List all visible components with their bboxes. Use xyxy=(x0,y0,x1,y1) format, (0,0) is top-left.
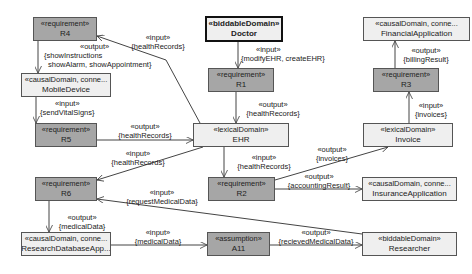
edge-label-researcher-r6: «input» {requestMedicalData} xyxy=(122,188,202,206)
node-r6[interactable]: «requirement» R6 xyxy=(35,177,97,201)
edge-kind: «output» xyxy=(281,172,357,181)
edge-data: {recievedMedicalData} xyxy=(273,237,359,246)
edge-data: {requestMedicalData} xyxy=(122,197,202,206)
edge-data: {billingResult} xyxy=(398,55,454,64)
edge-label-r2-invoice: «output» {invoices} xyxy=(312,145,352,163)
edge-data: {accountingResult} xyxy=(281,181,357,190)
edge-kind: «input» xyxy=(40,99,95,108)
node-r3[interactable]: «requirement» R3 xyxy=(373,68,439,92)
stereotype: «biddableDomain» xyxy=(208,19,279,29)
node-name: ResearchDatabaseApp... xyxy=(21,244,110,254)
edge-kind: «input» xyxy=(130,228,186,237)
stereotype: «requirement» xyxy=(217,70,265,80)
edge-kind: «input» xyxy=(105,149,171,158)
edge-data: {healthRecords} xyxy=(240,109,306,118)
node-name: Doctor xyxy=(231,29,257,39)
node-name: R1 xyxy=(236,80,246,90)
edge-kind: «output» xyxy=(398,46,454,55)
stereotype: «requirement» xyxy=(42,179,90,189)
edge-label-invoice-r3: «input» {invoices} xyxy=(411,101,451,119)
stereotype: «causalDomain, conne... xyxy=(25,75,108,85)
edge-data: {medicalData} xyxy=(130,237,186,246)
stereotype: «biddableDomain» xyxy=(378,234,441,244)
edge-label-a11-researcher: «output» {recievedMedicalData} xyxy=(273,228,359,246)
node-researcher[interactable]: «biddableDomain» Researcher xyxy=(362,232,457,256)
node-r1[interactable]: «requirement» R1 xyxy=(208,68,274,92)
edge-label-r6-researchdb: «output» {medicalData} xyxy=(54,213,110,231)
node-ehr[interactable]: «lexicalDomain» EHR xyxy=(193,123,289,147)
edge-label-mobile-r5: «input» {sendVitalSigns} xyxy=(40,99,95,117)
edge-data-line1: {showInstructions xyxy=(40,51,160,60)
edge-kind: «input» xyxy=(411,101,451,110)
edge-data: {sendVitalSigns} xyxy=(40,108,95,117)
edge-data: {medicalData} xyxy=(54,222,110,231)
edge-kind: «input» xyxy=(128,33,188,42)
edge-data: {healthRecords} xyxy=(231,162,297,171)
stereotype: «requirement» xyxy=(382,70,430,80)
stereotype: «requirement» xyxy=(41,19,89,29)
edge-kind: «output» xyxy=(54,213,110,222)
node-r5[interactable]: «requirement» R5 xyxy=(35,123,97,147)
stereotype: «requirement» xyxy=(42,125,90,135)
edge-label-r5-ehr: «output» {healthRecords} xyxy=(112,122,178,140)
edge-label-doctor-r1: «input» {modifyEHR, createEHR} xyxy=(241,45,325,63)
node-name: MobileDevice xyxy=(42,85,90,95)
node-financial-application[interactable]: «causalDomain, conne... FinancialApplica… xyxy=(363,17,470,41)
problem-diagram: «requirement» R4 «causalDomain, conne...… xyxy=(0,0,472,274)
node-invoice[interactable]: «lexicalDomain» Invoice xyxy=(363,123,453,147)
edge-data: {healthRecords} xyxy=(128,42,188,51)
node-name: Invoice xyxy=(395,135,420,145)
edge-kind: «output» xyxy=(273,228,359,237)
edge-kind: «output» xyxy=(112,122,178,131)
edge-data: {healthRecords} xyxy=(112,131,178,140)
stereotype: «causalDomain, conne... xyxy=(375,19,458,29)
node-mobile-device[interactable]: «causalDomain, conne... MobileDevice xyxy=(21,73,111,97)
stereotype: «lexicalDomain» xyxy=(213,125,268,135)
stereotype: «lexicalDomain» xyxy=(380,125,435,135)
edge-label-ehr-r2: «input» {healthRecords} xyxy=(231,153,297,171)
node-name: R4 xyxy=(60,29,70,39)
node-name: R3 xyxy=(401,80,411,90)
edge-data: {healthRecords} xyxy=(105,158,171,167)
edge-kind: «input» xyxy=(241,45,325,54)
node-name: InsuranceApplication xyxy=(372,189,446,199)
stereotype: «causalDomain, conne... xyxy=(368,179,451,189)
edge-label-r3-financial: «output» {billingResult} xyxy=(398,46,454,64)
edge-kind: «input» xyxy=(122,188,202,197)
node-name: FinancialApplication xyxy=(381,29,452,39)
edge-data: {invoices} xyxy=(312,154,352,163)
node-insurance-application[interactable]: «causalDomain, conne... InsuranceApplica… xyxy=(362,177,457,201)
edge-kind: «input» xyxy=(231,153,297,162)
node-name: R2 xyxy=(236,189,246,199)
node-r4[interactable]: «requirement» R4 xyxy=(33,17,97,41)
node-name: R5 xyxy=(61,135,71,145)
node-name: R6 xyxy=(61,189,71,199)
edge-data: {modifyEHR, createEHR} xyxy=(241,54,325,63)
stereotype: «causalDomain, conne... xyxy=(25,234,108,244)
edge-label-ehr-r6: «input» {healthRecords} xyxy=(105,149,171,167)
edge-kind: «output» xyxy=(312,145,352,154)
edge-kind: «output» xyxy=(240,100,306,109)
node-a11[interactable]: «assumption» A11 xyxy=(207,232,270,256)
edge-label-r1-ehr: «output» {healthRecords} xyxy=(240,100,306,118)
stereotype: «assumption» xyxy=(215,234,262,244)
edge-label-ehr-r4: «input» {healthRecords} xyxy=(128,33,188,51)
node-name: Researcher xyxy=(389,244,430,254)
node-doctor[interactable]: «biddableDomain» Doctor xyxy=(205,16,283,42)
stereotype: «requirement» xyxy=(217,179,265,189)
edge-data: {invoices} xyxy=(411,110,451,119)
node-name: A11 xyxy=(232,244,246,254)
node-r2[interactable]: «requirement» R2 xyxy=(208,177,275,201)
edge-label-researchdb-a11: «input» {medicalData} xyxy=(130,228,186,246)
edge-label-r2-insurance: «output» {accountingResult} xyxy=(281,172,357,190)
edge-data-line2: showAlarm, showAppointment} xyxy=(40,60,160,69)
node-name: EHR xyxy=(233,135,250,145)
node-research-database-app[interactable]: «causalDomain, conne... ResearchDatabase… xyxy=(21,232,111,256)
